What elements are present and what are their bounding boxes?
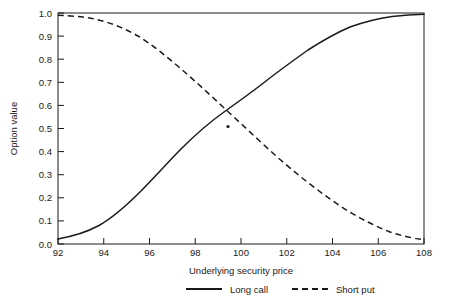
y-axis-title: Option value [8,102,19,155]
chart-svg: 1.0 0.9 0.8 0.7 0.6 0.5 0.4 0.3 0.2 0.1 … [0,0,459,305]
y-tick-label-0.9: 0.9 [39,31,52,42]
x-tick-label-98: 98 [190,247,201,258]
y-tick-label-0.1: 0.1 [39,215,52,226]
y-tick-label-0.4: 0.4 [39,146,52,157]
y-tick-label-0.6: 0.6 [39,100,52,111]
x-tick-label-108: 108 [416,247,432,258]
y-tick-label-0.7: 0.7 [39,77,52,88]
y-tick-label-0.8: 0.8 [39,54,52,65]
legend-label-short-put: Short put [336,284,375,295]
plot-frame [58,13,424,244]
chart-legend: Long call Short put [186,284,375,295]
x-tick-label-94: 94 [98,247,109,258]
x-tick-label-96: 96 [144,247,155,258]
y-tick-label-0.2: 0.2 [39,192,52,203]
y-tick-label-0.5: 0.5 [39,123,52,134]
x-tick-label-102: 102 [279,247,295,258]
x-tick-label-92: 92 [53,247,64,258]
x-tick-label-106: 106 [370,247,386,258]
x-axis-title: Underlying security price [189,265,293,276]
y-tick-label-0.0: 0.0 [39,239,52,250]
legend-label-long-call: Long call [230,284,268,295]
crossover-marker [226,125,229,128]
x-tick-label-104: 104 [325,247,341,258]
chart-figure: 1.0 0.9 0.8 0.7 0.6 0.5 0.4 0.3 0.2 0.1 … [0,0,459,305]
y-tick-label-1.0: 1.0 [39,8,52,19]
x-tick-label-100: 100 [233,247,249,258]
y-tick-label-0.3: 0.3 [39,169,52,180]
